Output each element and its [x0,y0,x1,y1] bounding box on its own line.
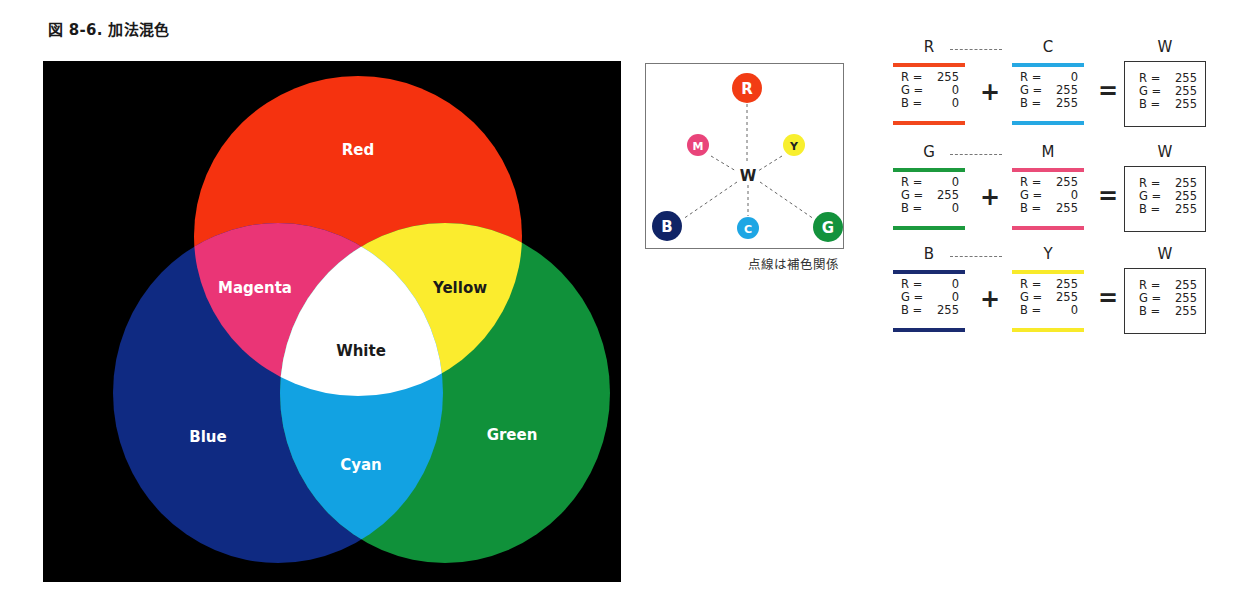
dash-w-g [760,182,814,219]
node-w: W [740,167,757,185]
operand-right-bar-bottom [1012,226,1084,230]
operand-left-label: R [893,38,965,56]
rgb-values: R =255G =255B =255 [1125,177,1205,216]
rgb-value-row: B =255 [1125,98,1205,111]
channel-label: B = [1020,97,1041,110]
channel-value: 255 [1163,203,1197,216]
rgb-value-row: B =0 [1012,304,1084,317]
svg-text:Y: Y [789,140,799,153]
result-label: W [1129,38,1201,56]
channel-label: B = [1139,203,1160,216]
complementary-wheel: R M Y W B C G [645,63,844,249]
operand-right-label: M [1012,143,1084,161]
svg-text:B: B [661,218,672,236]
rgb-value-row: B =255 [1125,203,1205,216]
rgb-values: R =255G =255B =255 [1125,72,1205,111]
result-label: W [1129,143,1201,161]
node-b: B [652,211,682,241]
result-box: R =255G =255B =255 [1124,268,1206,334]
plus-sign: + [980,285,1000,313]
channel-label: B = [901,202,922,215]
equals-sign: = [1098,284,1118,312]
complement-connector [950,49,1002,50]
channel-value: 255 [1044,202,1078,215]
label-green: Green [487,426,538,444]
channel-label: B = [1020,304,1041,317]
channel-value: 255 [925,304,959,317]
operand-right-bar-bottom [1012,121,1084,125]
channel-value: 0 [1044,304,1078,317]
dash-y-w [758,156,782,171]
result-label: W [1129,245,1201,263]
figure-title: 図 8-6. 加法混色 [48,18,170,39]
node-g: G [813,212,843,242]
rgb-values: R =255G =0B =0 [893,71,965,110]
result-box: R =255G =255B =255 [1124,61,1206,127]
channel-value: 0 [925,97,959,110]
rgb-value-row: B =0 [893,202,965,215]
equals-sign: = [1098,77,1118,105]
channel-label: B = [901,97,922,110]
rgb-value-row: B =255 [893,304,965,317]
rgb-values: R =255G =0B =255 [1012,176,1084,215]
channel-value: 255 [1163,305,1197,318]
svg-text:M: M [693,140,704,153]
complement-connector [950,256,1002,257]
equals-sign: = [1098,182,1118,210]
svg-text:W: W [740,167,757,185]
operand-left-bar-top [893,63,965,67]
svg-text:C: C [744,223,752,236]
label-magenta: Magenta [218,279,292,297]
operand-left-bar-top [893,270,965,274]
channel-label: B = [901,304,922,317]
plus-sign: + [980,183,1000,211]
operand-left-label: B [893,245,965,263]
operand-left-bar-bottom [893,328,965,332]
operand-right-label: C [1012,38,1084,56]
channel-value: 255 [1044,97,1078,110]
label-yellow: Yellow [432,279,487,297]
plus-sign: + [980,78,1000,106]
rgb-value-row: B =0 [893,97,965,110]
channel-label: B = [1020,202,1041,215]
operand-left-bar-bottom [893,226,965,230]
result-box: R =255G =255B =255 [1124,166,1206,232]
rgb-value-row: B =255 [1012,97,1084,110]
rgb-value-row: B =255 [1012,202,1084,215]
node-c: C [737,217,759,239]
complement-connector [950,154,1002,155]
rgb-value-row: B =255 [1125,305,1205,318]
operand-right-values: R =0G =255B =255 [1012,71,1084,110]
rgb-values: R =0G =255B =0 [893,176,965,215]
node-r: R [732,73,762,103]
wheel-caption: 点線は補色関係 [748,254,839,273]
operand-right-values: R =255G =0B =255 [1012,176,1084,215]
node-y: Y [783,134,805,156]
operand-left-values: R =0G =255B =0 [893,176,965,215]
channel-label: B = [1139,98,1160,111]
additive-color-venn: Red Magenta Yellow White Blue Cyan Green [43,61,621,582]
operand-right-bar-top [1012,168,1084,172]
operand-left-values: R =0G =0B =255 [893,278,965,317]
label-white: White [336,342,386,360]
operand-right-bar-bottom [1012,328,1084,332]
dash-m-w [711,156,736,171]
rgb-values: R =255G =255B =0 [1012,278,1084,317]
channel-value: 255 [1163,98,1197,111]
rgb-values: R =0G =0B =255 [893,278,965,317]
label-cyan: Cyan [340,456,382,474]
operand-right-values: R =255G =255B =0 [1012,278,1084,317]
node-m: M [687,134,709,156]
operand-right-label: Y [1012,245,1084,263]
operand-right-bar-top [1012,63,1084,67]
channel-value: 0 [925,202,959,215]
dash-w-b [683,182,737,219]
channel-label: B = [1139,305,1160,318]
operand-right-bar-top [1012,270,1084,274]
operand-left-bar-top [893,168,965,172]
operand-left-label: G [893,143,965,161]
svg-text:G: G [822,219,834,237]
label-red: Red [342,141,374,159]
operand-left-values: R =255G =0B =0 [893,71,965,110]
operand-left-bar-bottom [893,121,965,125]
